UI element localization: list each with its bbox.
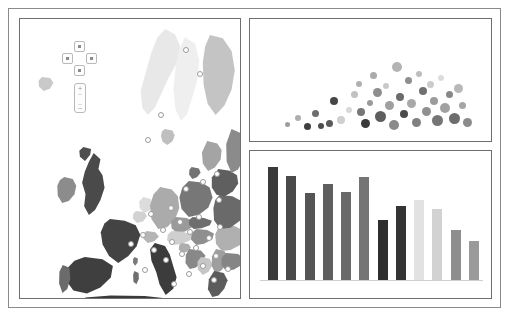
zoom-in-button[interactable]: + xyxy=(75,84,85,93)
bar-1[interactable] xyxy=(268,167,278,280)
bubble-point[interactable] xyxy=(375,111,386,122)
pan-up-button[interactable] xyxy=(74,41,85,52)
bubble-point[interactable] xyxy=(422,107,431,116)
map-region-baltic-states[interactable] xyxy=(200,141,224,171)
map-node-marker[interactable] xyxy=(213,253,219,259)
bar-8[interactable] xyxy=(396,206,406,280)
bubble-point[interactable] xyxy=(385,101,394,110)
map-canvas[interactable] xyxy=(20,19,240,298)
bubble-point[interactable] xyxy=(351,91,358,98)
map-node-marker[interactable] xyxy=(187,229,193,235)
bubble-chart-panel[interactable] xyxy=(249,18,492,142)
map-region-russia-kalin[interactable] xyxy=(188,167,202,179)
map-node-marker[interactable] xyxy=(216,197,222,203)
zoom-out-button[interactable]: − xyxy=(75,104,85,113)
map-node-marker[interactable] xyxy=(177,219,183,225)
map-node-marker[interactable] xyxy=(160,227,166,233)
bubble-point[interactable] xyxy=(392,62,402,72)
bar-9[interactable] xyxy=(414,200,424,280)
map-node-marker[interactable] xyxy=(183,47,189,53)
bubble-point[interactable] xyxy=(285,122,290,127)
bar-10[interactable] xyxy=(432,209,442,280)
bar-12[interactable] xyxy=(469,241,479,280)
map-region-belgium[interactable] xyxy=(132,211,148,223)
pan-left-button[interactable] xyxy=(62,53,73,64)
bubble-point[interactable] xyxy=(396,93,404,101)
bar-2[interactable] xyxy=(286,176,296,280)
bar-7[interactable] xyxy=(378,220,388,281)
map-node-marker[interactable] xyxy=(183,186,189,192)
map-node-marker[interactable] xyxy=(142,267,148,273)
bubble-point[interactable] xyxy=(412,118,421,127)
map-region-north-africa[interactable] xyxy=(80,295,170,298)
map-panel[interactable]: + − xyxy=(19,18,241,299)
bubble-point[interactable] xyxy=(430,97,438,105)
bubble-point[interactable] xyxy=(370,72,377,79)
bar-chart-panel[interactable] xyxy=(249,150,492,299)
bubble-point[interactable] xyxy=(438,75,444,81)
map-node-marker[interactable] xyxy=(196,214,202,220)
map-region-greece[interactable] xyxy=(206,271,230,297)
map-node-marker[interactable] xyxy=(200,263,206,269)
bubble-point[interactable] xyxy=(367,100,373,106)
map-node-marker[interactable] xyxy=(225,266,231,272)
bubble-point[interactable] xyxy=(361,119,370,128)
bubble-point[interactable] xyxy=(326,120,333,127)
map-node-marker[interactable] xyxy=(151,247,157,253)
bubble-point[interactable] xyxy=(416,71,422,77)
bubble-point[interactable] xyxy=(400,110,408,118)
bubble-point[interactable] xyxy=(356,81,362,87)
bubble-point[interactable] xyxy=(463,118,472,127)
bubble-point[interactable] xyxy=(330,97,338,105)
map-region-finland[interactable] xyxy=(198,35,238,115)
map-region-russia-north[interactable] xyxy=(224,129,240,173)
bubble-point[interactable] xyxy=(383,83,389,89)
map-node-marker[interactable] xyxy=(145,137,151,143)
bubble-point[interactable] xyxy=(318,123,324,129)
bar-6[interactable] xyxy=(359,177,369,280)
map-region-ireland[interactable] xyxy=(56,177,78,203)
map-node-marker[interactable] xyxy=(163,257,169,263)
map-node-marker[interactable] xyxy=(148,211,154,217)
map-node-marker[interactable] xyxy=(171,281,177,287)
map-node-marker[interactable] xyxy=(214,171,220,177)
bubble-point[interactable] xyxy=(357,108,365,116)
map-region-denmark[interactable] xyxy=(160,129,176,145)
bubble-point[interactable] xyxy=(459,102,466,109)
map-node-marker[interactable] xyxy=(193,245,199,251)
map-zoom-control[interactable]: + − xyxy=(74,83,86,113)
bar-11[interactable] xyxy=(451,230,461,280)
map-node-marker[interactable] xyxy=(128,241,134,247)
bubble-point[interactable] xyxy=(440,103,450,113)
map-node-marker[interactable] xyxy=(158,112,164,118)
map-node-marker[interactable] xyxy=(140,232,146,238)
bubble-point[interactable] xyxy=(346,107,352,113)
bubble-point[interactable] xyxy=(432,115,443,126)
map-pan-control[interactable] xyxy=(62,41,98,77)
pan-down-button[interactable] xyxy=(74,65,85,76)
bubble-point[interactable] xyxy=(419,87,427,95)
bubble-point[interactable] xyxy=(454,84,463,93)
map-node-marker[interactable] xyxy=(200,179,206,185)
map-node-marker[interactable] xyxy=(206,235,212,241)
bar-5[interactable] xyxy=(341,192,351,280)
map-region-corsica[interactable] xyxy=(132,257,139,266)
bubble-point[interactable] xyxy=(405,77,412,84)
map-region-iceland-isle[interactable] xyxy=(38,77,54,91)
bubble-point[interactable] xyxy=(295,115,301,121)
map-node-marker[interactable] xyxy=(211,277,217,283)
bar-3[interactable] xyxy=(305,193,315,280)
pan-right-button[interactable] xyxy=(86,53,97,64)
map-region-sardinia[interactable] xyxy=(132,271,140,285)
bubble-point[interactable] xyxy=(427,81,434,88)
bubble-point[interactable] xyxy=(449,113,460,124)
bubble-point[interactable] xyxy=(373,88,382,97)
map-node-marker[interactable] xyxy=(168,205,174,211)
bubble-point[interactable] xyxy=(312,110,319,117)
map-region-united-kingdom[interactable] xyxy=(76,153,110,215)
map-node-marker[interactable] xyxy=(186,271,192,277)
map-node-marker[interactable] xyxy=(169,239,175,245)
bubble-point[interactable] xyxy=(304,123,311,130)
bubble-point[interactable] xyxy=(337,116,345,124)
map-region-hungary[interactable] xyxy=(190,229,216,245)
